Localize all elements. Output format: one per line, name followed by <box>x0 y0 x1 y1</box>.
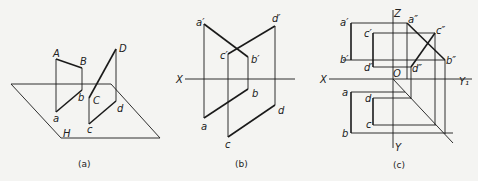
label-Z: Z <box>393 8 402 19</box>
label-a2: a″ <box>408 14 418 25</box>
caption-b: (b) <box>235 159 248 169</box>
label-c1: c′ <box>364 28 372 39</box>
line-cd <box>228 105 275 137</box>
line-c1d1 <box>228 26 275 54</box>
label-X: X <box>175 74 184 85</box>
caption-c: (c) <box>393 160 405 170</box>
label-O: O <box>393 68 401 79</box>
label-d: d <box>278 105 285 116</box>
label-c: c <box>87 124 93 135</box>
label-C: C <box>93 95 100 106</box>
label-d: d <box>365 93 372 104</box>
panel-b: a′ d′ c′ b′ X b d a c (b) <box>175 13 295 169</box>
label-a: a <box>53 113 59 124</box>
label-b: b <box>252 88 258 99</box>
caption-a: (a) <box>78 159 91 169</box>
label-b1: b′ <box>251 54 260 65</box>
label-a1: a′ <box>340 17 349 28</box>
label-a1: a′ <box>196 17 205 28</box>
label-b: b <box>78 92 84 103</box>
label-c1: c′ <box>220 50 228 61</box>
label-b1: b′ <box>340 54 349 65</box>
label-B: B <box>80 56 87 67</box>
line-AB <box>56 59 82 68</box>
label-d1: d′ <box>272 13 281 24</box>
label-Y1: Y₁ <box>459 76 469 87</box>
label-a: a <box>201 121 207 132</box>
line-CD <box>89 49 116 98</box>
label-b2: b″ <box>446 55 456 66</box>
projection-diagram: A B D C b a d c H (a) a′ d′ c′ b′ X b d … <box>0 0 478 181</box>
label-D: D <box>119 43 127 54</box>
panel-c: Z a″ c″ b″ d″ a′ c′ b′ d′ O X Y₁ a d c b… <box>319 8 472 170</box>
label-d2: d″ <box>412 63 422 74</box>
label-c2: c″ <box>436 25 445 36</box>
panel-a: A B D C b a d c H (a) <box>11 43 160 169</box>
label-d1: d′ <box>364 62 373 73</box>
label-c: c <box>366 119 372 130</box>
h-plane <box>11 84 160 138</box>
label-Y: Y <box>395 142 402 153</box>
label-d: d <box>117 103 124 114</box>
label-H: H <box>63 128 71 139</box>
label-X: X <box>319 74 328 85</box>
label-b: b <box>342 128 348 139</box>
label-c: c <box>225 139 231 150</box>
label-A: A <box>52 48 60 59</box>
line-ab <box>204 89 248 118</box>
label-a: a <box>342 87 348 98</box>
